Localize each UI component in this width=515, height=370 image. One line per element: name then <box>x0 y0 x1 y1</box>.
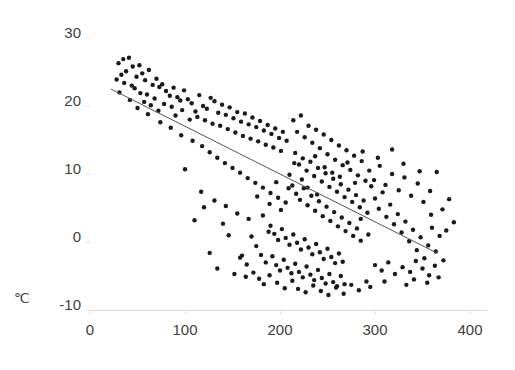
data-point <box>425 281 429 285</box>
data-point <box>304 168 308 172</box>
data-point <box>253 181 257 185</box>
data-point <box>262 282 266 286</box>
data-point <box>337 251 341 255</box>
scatter-plot-figure: ℃ 30 20 10 0 -10 0 100 200 300 400 <box>0 0 515 370</box>
data-point <box>332 210 336 214</box>
data-point <box>142 100 146 104</box>
data-point <box>357 288 361 292</box>
data-point <box>384 215 388 219</box>
data-point <box>259 253 263 257</box>
data-point <box>175 95 179 99</box>
data-point <box>320 276 324 280</box>
data-point <box>227 105 231 109</box>
data-point <box>350 200 354 204</box>
data-point <box>190 138 194 142</box>
data-point <box>189 101 193 105</box>
data-point <box>339 182 343 186</box>
data-point <box>325 247 329 251</box>
data-point <box>290 183 294 187</box>
data-point <box>333 261 337 265</box>
data-point <box>114 77 118 81</box>
data-point <box>313 209 317 213</box>
data-point <box>183 167 187 171</box>
data-point <box>216 111 220 115</box>
data-point <box>276 196 280 200</box>
data-point <box>301 275 305 279</box>
data-point <box>124 69 128 73</box>
data-point <box>164 89 168 93</box>
data-point <box>417 169 421 173</box>
data-point <box>359 217 363 221</box>
data-point <box>312 278 316 282</box>
data-point <box>441 258 445 262</box>
data-point <box>208 150 212 154</box>
data-point <box>223 161 227 165</box>
data-point <box>235 211 239 215</box>
data-point <box>336 224 340 228</box>
data-point <box>334 285 338 289</box>
data-point <box>313 154 317 158</box>
data-point <box>355 226 359 230</box>
data-point <box>369 184 373 188</box>
data-point <box>300 177 304 181</box>
data-point <box>239 119 243 123</box>
data-point <box>321 214 325 218</box>
data-point <box>360 149 364 153</box>
data-point <box>310 141 314 145</box>
data-point <box>284 138 288 142</box>
data-point <box>390 147 394 151</box>
data-point <box>267 202 271 206</box>
data-point <box>331 177 335 181</box>
data-point <box>316 166 320 170</box>
data-point <box>293 262 297 266</box>
data-point <box>160 82 164 86</box>
data-point <box>373 263 377 267</box>
data-point <box>162 102 166 106</box>
data-point <box>397 188 401 192</box>
data-point <box>366 232 370 236</box>
data-point <box>271 145 275 149</box>
data-point <box>311 283 315 287</box>
data-point <box>323 281 327 285</box>
data-point <box>244 274 248 278</box>
data-point <box>380 190 384 194</box>
x-tick-label-100: 100 <box>162 322 208 337</box>
data-point <box>208 96 212 100</box>
data-point <box>430 226 434 230</box>
data-point <box>329 138 333 142</box>
data-point <box>143 78 147 82</box>
data-point <box>402 175 406 179</box>
data-point <box>158 120 162 124</box>
data-point <box>231 116 235 120</box>
data-point <box>256 139 260 143</box>
data-point <box>193 109 197 113</box>
data-point <box>327 185 331 189</box>
data-point <box>147 68 151 72</box>
data-point <box>428 189 432 193</box>
data-point <box>376 155 380 159</box>
data-point <box>365 211 369 215</box>
data-point <box>326 293 330 297</box>
data-point <box>297 162 301 166</box>
data-point <box>134 75 138 79</box>
data-point <box>275 281 279 285</box>
x-tick-label-300: 300 <box>352 322 398 337</box>
data-point <box>306 245 310 249</box>
data-point <box>224 113 228 117</box>
data-point <box>149 103 153 107</box>
data-point <box>358 205 362 209</box>
data-point <box>360 159 364 163</box>
data-point <box>356 173 360 177</box>
data-point <box>341 260 345 264</box>
data-point <box>342 282 346 286</box>
y-tick-label-10: 10 <box>47 161 81 176</box>
data-point <box>340 215 344 219</box>
data-point <box>353 181 357 185</box>
data-point <box>390 172 394 176</box>
data-point <box>322 257 326 261</box>
data-point <box>310 252 314 256</box>
data-point <box>408 270 412 274</box>
data-point <box>327 272 331 276</box>
data-point <box>325 152 329 156</box>
data-point <box>284 200 288 204</box>
